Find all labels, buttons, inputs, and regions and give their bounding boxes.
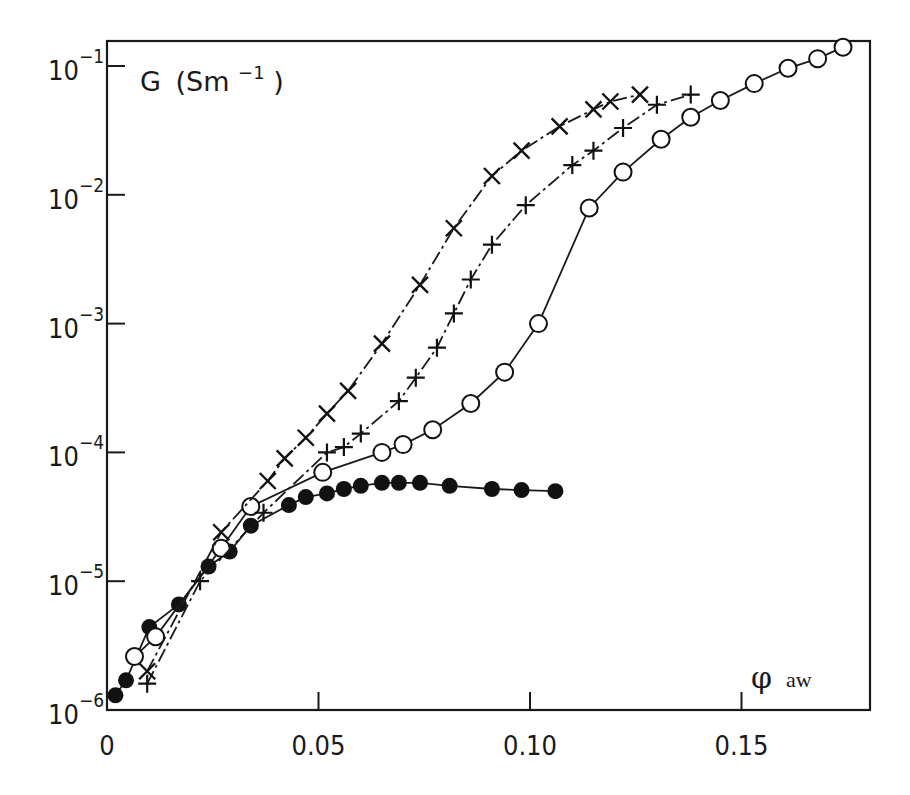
data-point: [213, 524, 229, 540]
data-point: [484, 481, 500, 497]
data-point: [319, 485, 335, 501]
data-point: [809, 50, 826, 67]
x-tick-label: 0.15: [714, 730, 768, 761]
data-point: [614, 119, 632, 137]
data-point: [281, 497, 297, 513]
data-point: [373, 444, 390, 461]
data-point: [445, 304, 463, 322]
data-point: [314, 464, 331, 481]
data-point: [615, 164, 632, 181]
data-point: [682, 86, 700, 104]
data-point: [584, 142, 602, 160]
series-line: [147, 95, 640, 672]
y-axis-title: G (Sm −1 ): [140, 54, 284, 97]
data-point: [530, 315, 547, 332]
series-line: [115, 483, 555, 695]
series-line: [147, 95, 691, 684]
data-point: [514, 482, 530, 498]
data-point: [319, 406, 335, 422]
data-point: [126, 648, 143, 665]
data-point: [648, 96, 666, 114]
series-open-circle: [126, 39, 852, 665]
data-point: [746, 75, 763, 92]
data-point: [412, 277, 428, 293]
data-point: [298, 489, 314, 505]
data-point: [336, 481, 352, 497]
y-tick-label: 10−6: [48, 689, 104, 730]
data-point: [446, 220, 462, 236]
data-point: [602, 94, 618, 110]
data-point: [412, 475, 428, 491]
data-point: [712, 92, 729, 109]
x-axis-title-symbol: φ: [751, 660, 772, 695]
x-axis-title-subscript: aw: [786, 667, 812, 692]
data-point: [260, 473, 276, 489]
data-point: [340, 383, 356, 399]
x-axis-ticks: 00.050.100.15: [99, 692, 768, 761]
data-point: [563, 156, 581, 174]
data-point: [277, 450, 293, 466]
data-point: [442, 478, 458, 494]
x-tick-label: 0.05: [291, 730, 345, 761]
y-tick-label: 10−2: [48, 174, 104, 215]
data-point: [585, 101, 601, 117]
data-point: [835, 39, 852, 56]
data-point: [780, 60, 797, 77]
data-point: [514, 143, 530, 159]
data-point: [462, 270, 480, 288]
y-axis-ticks: 10−610−510−410−310−210−1: [48, 45, 125, 730]
data-point: [462, 395, 479, 412]
series-x: [139, 87, 648, 680]
data-point: [407, 369, 425, 387]
data-point: [191, 572, 209, 590]
data-point: [496, 364, 513, 381]
data-point: [547, 483, 563, 499]
data-point: [428, 339, 446, 357]
data-point: [374, 336, 390, 352]
data-point: [395, 436, 412, 453]
data-point: [118, 672, 134, 688]
data-point: [353, 478, 369, 494]
y-tick-label: 10−4: [48, 431, 104, 472]
plot-frame: [107, 41, 870, 710]
series-filled-circle: [107, 475, 563, 703]
chart: 10−610−510−410−310−210−1 00.050.100.15 G…: [0, 0, 910, 795]
data-point: [632, 87, 648, 103]
y-tick-label: 10−3: [48, 303, 104, 344]
y-tick-label: 10−5: [48, 560, 104, 601]
data-point: [424, 421, 441, 438]
data-point: [552, 118, 568, 134]
y-tick-label: 10−1: [48, 45, 104, 86]
data-point: [298, 430, 314, 446]
data-point: [374, 475, 390, 491]
data-point: [484, 168, 500, 184]
data-point: [335, 438, 353, 456]
data-point: [653, 131, 670, 148]
data-point: [581, 199, 598, 216]
data-point: [682, 109, 699, 126]
x-tick-label: 0.10: [503, 730, 557, 761]
series-line: [134, 47, 843, 656]
data-point: [107, 687, 123, 703]
data-point: [391, 475, 407, 491]
data-series: [107, 39, 851, 704]
x-tick-label: 0: [99, 730, 114, 761]
